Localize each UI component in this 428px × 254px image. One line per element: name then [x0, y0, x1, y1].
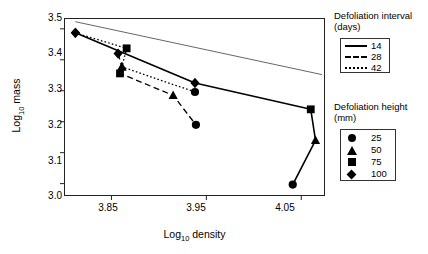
y-axis-label: Log10 mass	[10, 46, 25, 166]
legend-item-height-25[interactable]: 25	[341, 132, 397, 144]
legend-item-height-75[interactable]: 75	[341, 156, 397, 168]
legend-item-height-50[interactable]: 50	[341, 144, 397, 156]
legend-item-label: 75	[371, 156, 382, 168]
y-tick-label: 3.4	[28, 48, 62, 58]
legend-height-box: 25 50 75 100	[340, 129, 396, 181]
y-tick-label: 3.0	[28, 191, 62, 201]
x-axis-label-suffix: density	[189, 228, 225, 240]
legend-interval-title-line1: Defoliation interval	[334, 10, 412, 21]
y-tick-label: 3.5	[28, 13, 62, 23]
legend-height-title-line1: Defoliation height	[334, 101, 407, 112]
legend-interval-box: 14 28 42	[340, 38, 390, 73]
legend-item-height-100[interactable]: 100	[341, 168, 397, 180]
chart-figure: 3.5 3.4 3.3 3.2 3.1 3.0 3.85 3.95 4.05 L…	[0, 0, 428, 254]
dashed-line-icon	[345, 56, 367, 58]
legend-item-interval-42[interactable]: 42	[341, 62, 391, 74]
dotted-line-icon	[345, 67, 367, 69]
square-marker-icon	[348, 158, 356, 166]
legend-height-title: Defoliation height (mm)	[334, 101, 428, 123]
legend-item-label: 42	[371, 62, 382, 74]
x-tick-label: 3.95	[176, 203, 216, 213]
plot-area	[64, 18, 325, 196]
x-axis-label-prefix: Log	[163, 228, 181, 240]
y-tick-label: 3.3	[28, 84, 62, 94]
y-tick-label: 3.2	[28, 120, 62, 130]
diamond-marker-icon	[347, 170, 357, 180]
legend-item-label: 25	[371, 132, 382, 144]
legend-height-title-line2: (mm)	[334, 112, 356, 123]
y-axis-label-sub: 10	[17, 107, 26, 115]
x-axis-label: Log10 density	[64, 228, 325, 243]
y-tick-label: 3.1	[28, 156, 62, 166]
legend-item-label: 100	[371, 168, 387, 180]
legend-interval-title-line2: (days)	[334, 21, 360, 32]
x-tick-label: 4.05	[265, 203, 305, 213]
legend-item-label: 50	[371, 144, 382, 156]
circle-marker-icon	[348, 134, 356, 142]
y-axis-label-prefix: Log	[10, 115, 22, 133]
x-tick-label: 3.85	[88, 203, 128, 213]
triangle-marker-icon	[347, 146, 357, 155]
y-axis-label-suffix: mass	[10, 79, 22, 107]
solid-line-icon	[345, 45, 367, 47]
legend-interval-title: Defoliation interval (days)	[334, 10, 428, 32]
